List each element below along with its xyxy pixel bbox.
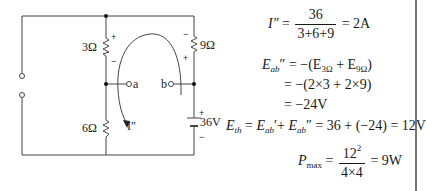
resistor-6ohm [103, 120, 109, 137]
pmax-result: = 9W [370, 153, 402, 168]
current-numerator: 36 [295, 8, 336, 24]
pmax-symbol: P [298, 153, 307, 168]
r9-minus: − [183, 29, 188, 39]
eab2-sub: ab [297, 125, 306, 135]
eth-result: = 36 + (−24) = 12V [315, 118, 426, 133]
eab-rhs-a: = −(E [289, 57, 322, 72]
equation-current: I″ = 36 3+6+9 = 2A [268, 8, 370, 41]
label-3ohm: 3Ω [82, 40, 97, 54]
eab-sub-3ohm: 3Ω [321, 64, 332, 74]
equation-eab-line2: = −(2×3 + 2×9) [284, 78, 371, 92]
battery-minus: − [199, 132, 204, 142]
circuit-diagram: 3Ω 9Ω 6Ω 36V a b I″ + − − + + − [0, 0, 240, 191]
r3-minus: − [111, 56, 116, 66]
eab2-mark: ″ [306, 118, 312, 133]
open-terminals [20, 74, 174, 98]
pmax-denominator: 4×4 [339, 163, 365, 180]
eab1-mark: ′ [274, 118, 277, 133]
battery-plus: + [199, 108, 204, 118]
r9-plus: + [183, 53, 188, 63]
terminal-b-label: b [161, 77, 167, 91]
eab1-sub: ab [265, 125, 274, 135]
pmax-num-base: 12 [343, 146, 357, 161]
terminal-a-label: a [133, 77, 139, 91]
current-loop-arrow [118, 34, 181, 124]
eab-sub-9ohm: 9Ω [356, 64, 367, 74]
eth-symbol: E [226, 118, 235, 133]
equation-eab-line3: = −24V [284, 98, 327, 112]
wires [22, 16, 194, 155]
eab2-symbol: E [289, 118, 298, 133]
current-denominator: 3+6+9 [295, 24, 336, 41]
resistor-3ohm [103, 38, 109, 56]
equation-eth: Eth = Eab′+ Eab″ = 36 + (−24) = 12V [226, 119, 426, 135]
current-result: = 2A [342, 16, 371, 31]
current-symbol: I″ [268, 16, 279, 31]
resistor-9ohm [191, 36, 197, 52]
equation-eab-line1: Eab″ = −(E3Ω + E9Ω) [262, 58, 372, 74]
eab-mid: + E [333, 57, 356, 72]
eab-end: ) [367, 57, 372, 72]
eth-sub: th [235, 125, 242, 135]
r3-plus: + [111, 32, 116, 42]
pmax-num-exp: 2 [357, 143, 362, 153]
pmax-numerator: 122 [339, 144, 365, 163]
label-6ohm: 6Ω [82, 121, 97, 135]
eab-sub: ab [271, 64, 280, 74]
right-border-line [415, 0, 417, 191]
eab-mark: ″ [280, 57, 286, 72]
label-9ohm: 9Ω [200, 38, 215, 52]
current-fraction: 36 3+6+9 [295, 8, 336, 41]
equation-pmax: Pmax = 122 4×4 = 9W [298, 144, 402, 180]
eab1-symbol: E [256, 118, 265, 133]
eab-symbol: E [262, 57, 271, 72]
battery-36v [187, 118, 201, 126]
current-label: I″ [127, 119, 136, 133]
pmax-sub: max [307, 160, 323, 170]
pmax-fraction: 122 4×4 [339, 144, 365, 180]
